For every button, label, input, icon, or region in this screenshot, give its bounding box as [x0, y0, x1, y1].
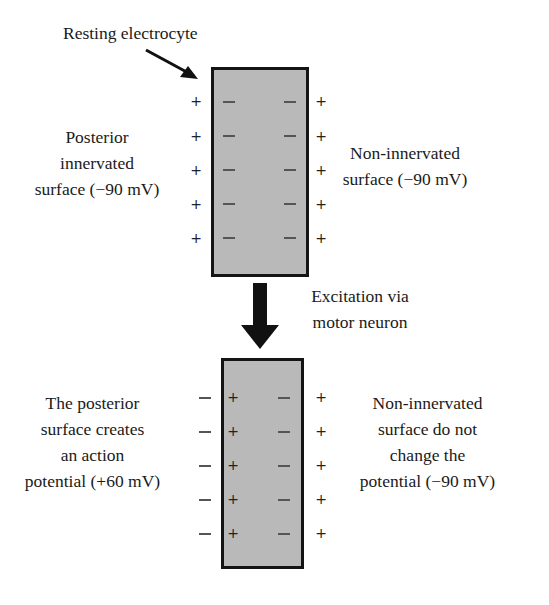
charge-sign: + — [314, 492, 328, 506]
charge-sign — [284, 135, 296, 137]
resting-electrocyte-title: Resting electrocyte — [63, 20, 198, 46]
charge-sign: + — [314, 129, 328, 143]
charge-sign: + — [189, 231, 203, 245]
charge-sign: + — [314, 197, 328, 211]
charge-sign: + — [226, 492, 240, 506]
charge-sign — [223, 203, 235, 205]
charge-sign: + — [314, 231, 328, 245]
charge-sign: + — [189, 197, 203, 211]
charge-sign — [278, 465, 290, 467]
charge-sign: + — [189, 94, 203, 108]
charge-sign — [223, 101, 235, 103]
charge-sign — [284, 203, 296, 205]
charge-sign — [199, 431, 211, 433]
charge-sign — [284, 101, 296, 103]
charge-sign: + — [314, 458, 328, 472]
charge-sign — [223, 135, 235, 137]
charge-sign: + — [189, 129, 203, 143]
charge-sign — [199, 499, 211, 501]
resting-electrocyte-cell — [211, 67, 309, 277]
charge-sign — [278, 499, 290, 501]
charge-sign: + — [314, 526, 328, 540]
charge-sign: + — [226, 424, 240, 438]
charge-sign — [278, 431, 290, 433]
charge-sign: + — [226, 458, 240, 472]
charge-sign: + — [314, 390, 328, 404]
posterior-action-potential-label: The posterior surface creates an action … — [10, 390, 175, 494]
charge-sign — [199, 397, 211, 399]
charge-sign: + — [314, 163, 328, 177]
charge-sign: + — [314, 424, 328, 438]
charge-sign — [278, 533, 290, 535]
charge-sign — [223, 237, 235, 239]
charge-sign — [284, 237, 296, 239]
non-innervated-unchanged-label: Non-innervated surface do not change the… — [345, 390, 510, 494]
charge-sign — [199, 465, 211, 467]
pointer-arrow-icon — [142, 46, 202, 86]
charge-sign: + — [314, 94, 328, 108]
non-innervated-surface-label: Non-innervated surface (−90 mV) — [330, 140, 480, 192]
charge-sign: + — [226, 526, 240, 540]
charge-sign — [278, 397, 290, 399]
charge-sign: + — [189, 163, 203, 177]
charge-sign — [284, 169, 296, 171]
charge-sign: + — [226, 390, 240, 404]
excitation-label: Excitation via motor neuron — [295, 283, 425, 335]
posterior-surface-label: Posterior innervated surface (−90 mV) — [22, 124, 172, 202]
down-arrow-icon — [240, 283, 280, 353]
charge-sign — [223, 169, 235, 171]
charge-sign — [199, 533, 211, 535]
